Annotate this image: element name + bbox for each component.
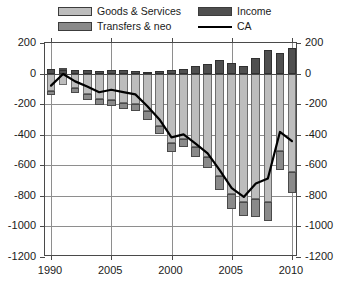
y-axis-tick-label: -1200 bbox=[0, 251, 36, 262]
legend-label: Goods & Services bbox=[97, 6, 181, 17]
legend-label: Transfers & neo bbox=[97, 21, 171, 32]
y-tick-left bbox=[40, 196, 45, 197]
x-axis-tick-label: 2005 bbox=[88, 265, 132, 276]
legend-label: CA bbox=[237, 21, 252, 32]
x-tick-top bbox=[51, 38, 52, 43]
x-tick bbox=[232, 255, 233, 260]
y-axis-tick-label-right: 0 bbox=[305, 68, 311, 79]
y-axis-tick-label-right: -400 bbox=[305, 129, 327, 140]
x-tick-top bbox=[111, 38, 112, 43]
legend-swatch-icon bbox=[58, 22, 92, 31]
y-axis-tick-label-right: -1000 bbox=[305, 220, 333, 231]
chart-container: Goods & Services Transfers & neo Income … bbox=[0, 0, 350, 293]
x-axis-tick-label: 1990 bbox=[28, 265, 72, 276]
x-tick-top bbox=[172, 38, 173, 43]
legend-item-transfers-neo: Transfers & neo bbox=[58, 21, 171, 32]
x-tick-top bbox=[292, 38, 293, 43]
y-tick-right bbox=[296, 196, 301, 197]
y-tick-right bbox=[296, 257, 301, 258]
legend-swatch-icon bbox=[58, 7, 92, 16]
legend-item-goods-services: Goods & Services bbox=[58, 6, 181, 17]
x-tick bbox=[51, 255, 52, 260]
plot-inner bbox=[45, 43, 296, 255]
y-axis-tick-label-right: 200 bbox=[305, 37, 323, 48]
y-tick-left bbox=[40, 226, 45, 227]
y-axis-tick-label-right: -600 bbox=[305, 159, 327, 170]
y-tick-right bbox=[296, 226, 301, 227]
y-tick-right bbox=[296, 165, 301, 166]
y-tick-left bbox=[40, 43, 45, 44]
y-tick-left bbox=[40, 104, 45, 105]
y-tick-left bbox=[40, 74, 45, 75]
y-axis-tick-label-right: -200 bbox=[305, 98, 327, 109]
x-tick-top bbox=[232, 38, 233, 43]
x-axis-tick-label: 2000 bbox=[149, 265, 193, 276]
y-axis-tick-label: 0 bbox=[0, 68, 36, 79]
y-tick-left bbox=[40, 257, 45, 258]
plot-area bbox=[44, 42, 297, 256]
y-tick-left bbox=[40, 135, 45, 136]
y-tick-right bbox=[296, 104, 301, 105]
y-axis-tick-label-right: -800 bbox=[305, 190, 327, 201]
y-tick-left bbox=[40, 165, 45, 166]
legend-label: Income bbox=[237, 6, 271, 17]
y-axis-tick-label: -200 bbox=[0, 98, 36, 109]
y-axis-tick-label: -800 bbox=[0, 190, 36, 201]
x-tick bbox=[292, 255, 293, 260]
y-axis-tick-label: -1000 bbox=[0, 220, 36, 231]
y-tick-right bbox=[296, 135, 301, 136]
legend-line-icon bbox=[198, 22, 232, 31]
ca-line-path bbox=[51, 74, 292, 197]
y-axis-tick-label: -600 bbox=[0, 159, 36, 170]
y-axis-tick-label: -400 bbox=[0, 129, 36, 140]
legend-item-income: Income bbox=[198, 6, 271, 17]
legend-item-ca: CA bbox=[198, 21, 252, 32]
y-tick-right bbox=[296, 74, 301, 75]
y-axis-tick-label: 200 bbox=[0, 37, 36, 48]
ca-line-series bbox=[45, 43, 298, 257]
x-tick bbox=[172, 255, 173, 260]
x-axis-tick-label: 2010 bbox=[269, 265, 313, 276]
y-tick-right bbox=[296, 43, 301, 44]
legend-swatch-icon bbox=[198, 7, 232, 16]
x-axis-tick-label: 2005 bbox=[209, 265, 253, 276]
y-axis-tick-label-right: -1200 bbox=[305, 251, 333, 262]
x-tick bbox=[111, 255, 112, 260]
chart-legend: Goods & Services Transfers & neo Income … bbox=[58, 6, 316, 36]
